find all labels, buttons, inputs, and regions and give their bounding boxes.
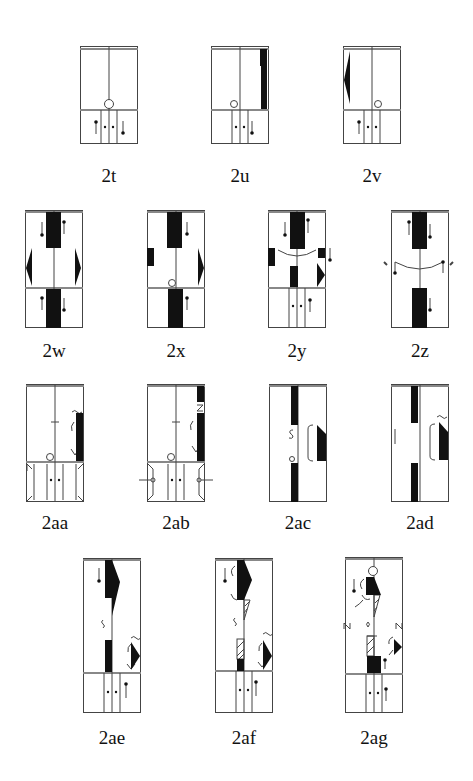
figure-2u [211, 46, 269, 144]
figure-label: 2ac [258, 512, 338, 534]
figure-2aa [26, 384, 84, 502]
diagram-2ad [391, 384, 449, 502]
diagram-2ab [147, 384, 205, 502]
figure-2ab [147, 384, 205, 502]
figure-2w [25, 210, 83, 328]
figure-label: 2ae [72, 727, 152, 749]
diagram-2v [343, 46, 401, 144]
figure-label: 2v [332, 165, 412, 187]
diagram-2z [391, 210, 449, 328]
figure-label: 2ag [334, 727, 414, 749]
figure-2x [147, 210, 205, 328]
figure-label: 2t [69, 165, 149, 187]
figure-label: 2u [200, 165, 280, 187]
diagram-2ac [269, 384, 327, 502]
figure-label: 2aa [15, 512, 95, 534]
figure-label: 2ad [380, 512, 460, 534]
figure-2v [343, 46, 401, 144]
figure-2t [80, 46, 138, 144]
diagram-2x [147, 210, 205, 328]
figure-label: 2x [136, 340, 216, 362]
diagram-2af [215, 558, 273, 713]
figure-2af [215, 558, 273, 713]
diagram-2w [25, 210, 83, 328]
figure-label: 2z [380, 340, 460, 362]
diagram-2t [80, 46, 138, 144]
figure-2ag [345, 557, 403, 713]
diagram-2u [211, 46, 269, 144]
figure-2ae [83, 558, 141, 713]
diagram-2ag [345, 557, 403, 713]
figure-label: 2w [14, 340, 94, 362]
figure-2ac [269, 384, 327, 502]
figure-label: 2y [257, 340, 337, 362]
diagram-2y [268, 210, 326, 328]
diagram-2aa [26, 384, 84, 502]
figure-label: 2af [204, 727, 284, 749]
figure-label: 2ab [136, 512, 216, 534]
figure-2z [391, 210, 449, 328]
figure-2ad [391, 384, 449, 502]
diagram-2ae [83, 558, 141, 713]
figure-2y [268, 210, 326, 328]
